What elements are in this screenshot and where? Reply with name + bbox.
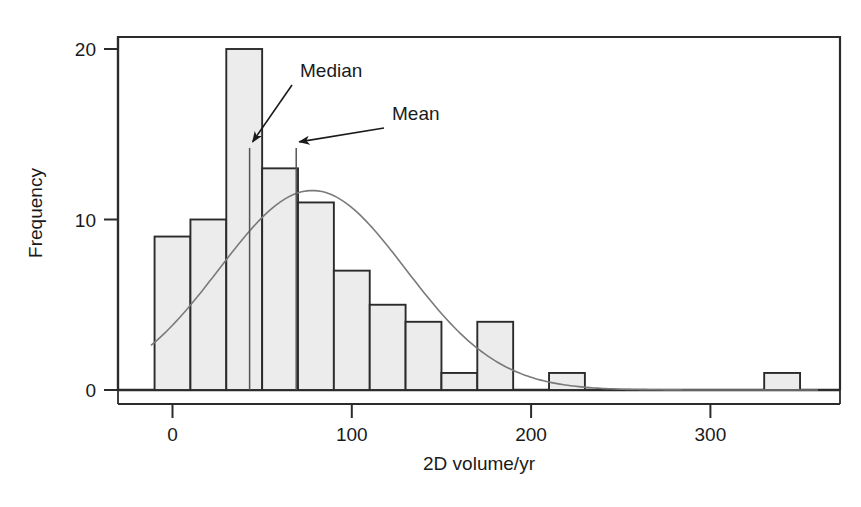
histogram-bar — [406, 322, 442, 390]
x-axis-tick-label: 100 — [336, 424, 368, 445]
histogram-bar — [441, 373, 477, 390]
histogram-bar — [334, 271, 370, 390]
histogram-bar — [370, 305, 406, 390]
y-axis-tick-label: 10 — [75, 210, 96, 231]
histogram-chart: 01020 Frequency 0100200300 2D volume/yr … — [0, 0, 861, 507]
histogram-bar — [190, 220, 226, 391]
histogram-bar — [477, 322, 513, 390]
y-axis-tick-label: 0 — [85, 380, 96, 401]
annotation-label: Mean — [392, 103, 440, 124]
y-axis-title: Frequency — [25, 168, 46, 258]
x-axis-tick-label: 200 — [515, 424, 547, 445]
x-axis-title: 2D volume/yr — [423, 453, 536, 474]
histogram-bar — [226, 49, 262, 390]
histogram-bar — [298, 202, 334, 390]
figure-background — [0, 0, 861, 507]
y-axis-tick-label: 20 — [75, 39, 96, 60]
x-axis-tick-label: 0 — [167, 424, 178, 445]
histogram-figure: 01020 Frequency 0100200300 2D volume/yr … — [0, 0, 861, 507]
histogram-bar — [764, 373, 800, 390]
x-axis-tick-label: 300 — [695, 424, 727, 445]
histogram-bar — [155, 237, 191, 390]
annotation-label: Median — [300, 60, 362, 81]
